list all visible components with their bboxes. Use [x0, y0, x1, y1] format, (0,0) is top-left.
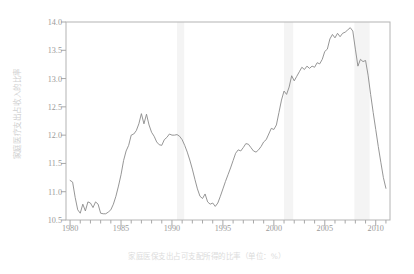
y-tick-label: 12.0 [28, 131, 62, 140]
chart-caption: 家庭医保支出占可支配所得的比率（单位：%） [0, 250, 414, 261]
x-tick-label: 1980 [50, 224, 90, 233]
x-tick-label: 2005 [305, 224, 345, 233]
y-tick-label: 14.0 [28, 18, 62, 27]
plot-frame [66, 22, 390, 220]
x-tick-label: 1985 [101, 224, 141, 233]
x-tick-label: 1995 [203, 224, 243, 233]
axis-ticks [61, 22, 386, 226]
x-tick-label: 2000 [254, 224, 294, 233]
recession-bands [177, 22, 370, 220]
y-tick-label: 13.5 [28, 46, 62, 55]
y-tick-label: 13.0 [28, 74, 62, 83]
y-axis-title: 家庭医疗支出占收入的比率 [11, 54, 22, 174]
x-tick-label: 1990 [152, 224, 192, 233]
chart-figure: 家庭医疗支出占收入的比率 10.511.011.512.012.513.013.… [0, 0, 414, 274]
y-tick-label: 12.5 [28, 102, 62, 111]
x-axis-tick-labels: 1980198519901995200020052010 [0, 224, 414, 240]
y-tick-label: 11.0 [28, 187, 62, 196]
x-tick-label: 2010 [356, 224, 396, 233]
y-tick-label: 11.5 [28, 159, 62, 168]
data-series-line [70, 28, 386, 214]
